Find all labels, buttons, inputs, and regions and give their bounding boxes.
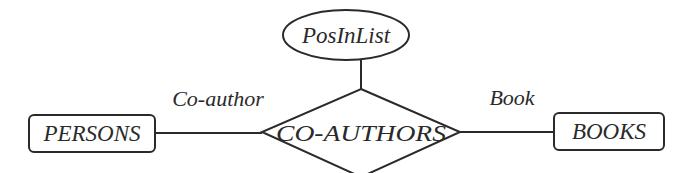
entity-label: BOOKS	[572, 119, 647, 144]
entity-books: BOOKS	[554, 113, 664, 150]
relationship-label: CO-AUTHORS	[276, 121, 447, 146]
entity-persons: PERSONS	[29, 115, 155, 152]
attribute-posinlist: PosInList	[283, 10, 409, 60]
er-diagram: PosInList CO-AUTHORS PERSONS BOOKS Co-au…	[0, 0, 689, 173]
role-label-co-author: Co-author	[172, 86, 264, 111]
role-label-book: Book	[489, 85, 535, 110]
relationship-co-authors: CO-AUTHORS	[262, 89, 460, 173]
entity-label: PERSONS	[42, 121, 141, 146]
attribute-label: PosInList	[301, 23, 391, 48]
